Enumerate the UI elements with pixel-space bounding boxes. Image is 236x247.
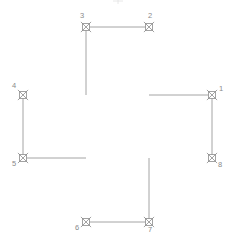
vertex-label-3: 3: [80, 11, 84, 20]
vertex-label-6: 6: [75, 223, 79, 232]
vertex-label-4: 4: [12, 81, 16, 90]
vertex-marker-1[interactable]: [207, 90, 217, 100]
vertex-marker-3[interactable]: [81, 22, 91, 32]
vertex-marker-5[interactable]: [18, 153, 28, 163]
vertex-marker-8[interactable]: [207, 153, 217, 163]
vertex-label-5: 5: [12, 159, 16, 168]
cad-drawing-canvas[interactable]: 12345678: [0, 0, 236, 247]
vertex-label-2: 2: [148, 11, 152, 20]
vertex-marker-2[interactable]: [144, 22, 154, 32]
polygon-edges: [23, 27, 212, 222]
cropped-top-mark: [113, 0, 123, 4]
vertex-label-1: 1: [219, 84, 223, 93]
vertex-label-8: 8: [218, 160, 222, 169]
vertex-marker-4[interactable]: [18, 90, 28, 100]
vertex-markers: [18, 22, 217, 227]
vertex-marker-6[interactable]: [81, 217, 91, 227]
vertex-labels: 12345678: [12, 11, 223, 234]
cad-diagram-viewport: 12345678: [0, 0, 236, 247]
vertex-label-7: 7: [148, 225, 152, 234]
